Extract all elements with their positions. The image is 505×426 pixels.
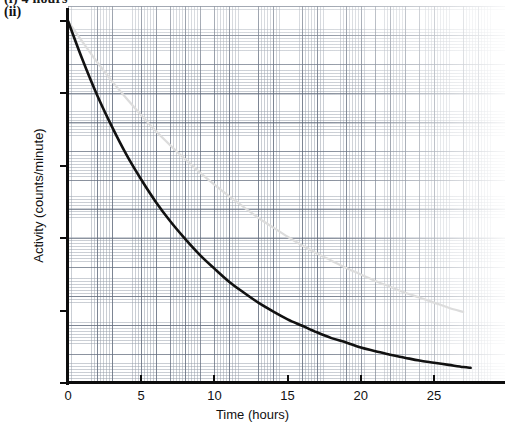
plot-area [68, 6, 505, 383]
x-tick-10 [213, 375, 215, 384]
y-axis-label: Activity (counts/minute) [31, 96, 46, 296]
decay-curves [68, 6, 505, 383]
y-tick-400 [60, 92, 69, 94]
comparison-decay-curve [68, 21, 463, 312]
y-tick-200 [60, 237, 69, 239]
y-tick-100 [60, 310, 69, 312]
x-tick-label-5: 5 [121, 388, 161, 403]
x-tick-0 [67, 375, 69, 384]
x-tick-label-0: 0 [48, 388, 88, 403]
x-tick-label-15: 15 [268, 388, 308, 403]
x-tick-label-25: 25 [414, 388, 454, 403]
x-tick-label-10: 10 [194, 388, 234, 403]
y-tick-300 [60, 165, 69, 167]
x-axis-line [66, 381, 505, 384]
x-axis-label: Time (hours) [0, 407, 505, 422]
y-tick-500 [60, 20, 69, 22]
x-tick-5 [140, 375, 142, 384]
x-tick-label-20: 20 [341, 388, 381, 403]
x-tick-20 [360, 375, 362, 384]
part-label: (ii) [4, 4, 21, 20]
measured-decay-curve [68, 21, 471, 368]
x-tick-15 [287, 375, 289, 384]
y-axis-line [66, 8, 69, 385]
x-tick-25 [433, 375, 435, 384]
